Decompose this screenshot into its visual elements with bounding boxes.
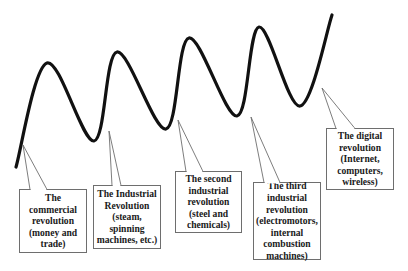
callout-line: (steel and (185, 208, 231, 220)
callout-pointer (23, 145, 47, 190)
callout-third-industrial-revolution: The third industrial revolution (electro… (253, 182, 321, 260)
callout-line: (money and (29, 227, 77, 239)
callout-line: (Internet, (337, 153, 383, 165)
callout-line: The Industrial (97, 188, 157, 200)
callout-text: The commercial revolution (money and tra… (29, 192, 77, 250)
callout-line: revolution (256, 204, 318, 216)
callout-second-industrial-revolution: The second industrial revolution (steel … (175, 171, 242, 233)
callout-line: machines, etc.) (97, 234, 157, 246)
callout-line: machines) (256, 250, 318, 262)
callout-line: revolution (29, 215, 77, 227)
callout-line: industrial (256, 192, 318, 204)
callout-line: The second (185, 173, 231, 185)
callout-line: combustion (256, 238, 318, 250)
callout-pointer (178, 120, 203, 172)
callout-line: (electromotors, (256, 215, 318, 227)
revolution-wave-curve (16, 15, 332, 167)
callout-line: commercial (29, 204, 77, 216)
callout-text: The Industrial Revolution (steam, spinni… (97, 188, 157, 246)
callout-line: The digital (337, 130, 383, 142)
callout-line: The third (256, 180, 318, 192)
callout-line: revolution (185, 196, 231, 208)
callout-commercial-revolution: The commercial revolution (money and tra… (19, 189, 87, 253)
callout-digital-revolution: The digital revolution (Internet, comput… (326, 128, 394, 190)
callout-pointer (251, 117, 280, 183)
callout-line: industrial (185, 185, 231, 197)
callout-text: The second industrial revolution (steel … (185, 173, 231, 231)
callout-text: The digital revolution (Internet, comput… (337, 130, 383, 188)
callout-line: trade) (29, 238, 77, 250)
callout-pointer (109, 131, 121, 186)
callout-line: The (29, 192, 77, 204)
callout-text: The third industrial revolution (electro… (256, 180, 318, 261)
callout-line: (steam, (97, 211, 157, 223)
callout-line: chemicals) (185, 219, 231, 231)
callout-line: internal (256, 227, 318, 239)
callout-line: spinning (97, 223, 157, 235)
callout-line: Revolution (97, 200, 157, 212)
callout-line: revolution (337, 142, 383, 154)
callout-industrial-revolution: The Industrial Revolution (steam, spinni… (93, 185, 161, 249)
callout-line: wireless) (337, 176, 383, 188)
callout-pointer (322, 88, 355, 129)
callout-line: computers, (337, 165, 383, 177)
